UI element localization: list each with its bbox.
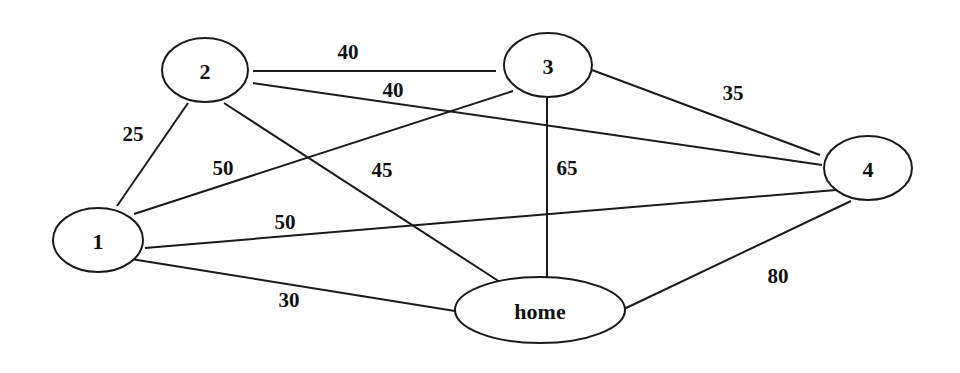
edge-2-home <box>224 103 500 282</box>
edge-3-4 <box>592 70 820 155</box>
edge-weight-3-4: 35 <box>723 81 744 105</box>
node-2: 2 <box>162 38 248 102</box>
edge-weight-2-4: 40 <box>383 78 404 102</box>
graph-svg: 2341home 40402545503565503080 <box>0 0 960 373</box>
node-3: 3 <box>504 33 592 97</box>
node-label-1: 1 <box>93 229 104 254</box>
node-label-2: 2 <box>200 59 211 84</box>
node-label-3: 3 <box>543 54 554 79</box>
edge-2-1 <box>117 103 188 206</box>
edge-weight-2-3: 40 <box>338 40 359 64</box>
edge-1-4 <box>145 190 836 248</box>
edge-weight-3-1: 50 <box>213 156 234 180</box>
edge-weight-2-home: 45 <box>372 158 393 182</box>
node-1: 1 <box>53 208 143 272</box>
node-label-home: home <box>514 299 566 324</box>
edge-weight-2-1: 25 <box>123 122 144 146</box>
node-4: 4 <box>824 136 912 200</box>
edge-3-1 <box>134 91 513 214</box>
node-home: home <box>455 277 625 343</box>
edge-weight-1-home: 30 <box>279 288 300 312</box>
edge-home-4 <box>624 201 851 309</box>
edge-weight-1-4: 50 <box>275 210 296 234</box>
graph-diagram: 2341home 40402545503565503080 <box>0 0 960 373</box>
edge-weight-home-4: 80 <box>768 264 789 288</box>
edge-weight-3-home: 65 <box>557 156 578 180</box>
node-label-4: 4 <box>863 157 874 182</box>
nodes-layer: 2341home <box>53 33 912 343</box>
edges-layer <box>117 70 851 311</box>
